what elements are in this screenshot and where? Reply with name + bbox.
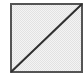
diagonal-border-svg <box>0 0 84 77</box>
diagonal-border-icon <box>0 0 84 77</box>
